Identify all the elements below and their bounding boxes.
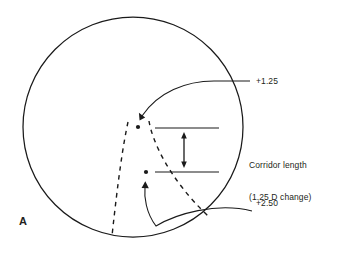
double-arrow-vertical-icon <box>181 132 187 168</box>
label-upper-power: +1.25 <box>256 76 278 87</box>
curved-leader-arrow-icon-lower <box>142 181 252 226</box>
panel-letter: A <box>19 216 27 227</box>
circle-outline-icon <box>23 17 243 237</box>
label-lower-power: +2.50 <box>256 198 278 209</box>
figure-panel-a: +1.25 Corridor length (1.25 D change) +2… <box>0 0 343 253</box>
dashed-corridor-boundary-icon-left <box>112 122 128 236</box>
dashed-corridor-boundary-icon-right <box>149 121 209 217</box>
curved-leader-arrow-icon-upper <box>139 81 250 121</box>
label-corridor-line1: Corridor length <box>249 160 311 171</box>
label-corridor-length: Corridor length (1.25 D change) <box>249 139 311 223</box>
dot-marker-icon-upper <box>136 125 140 129</box>
dot-marker-icon-lower <box>144 170 148 174</box>
